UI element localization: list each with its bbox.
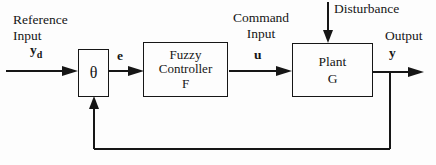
plant-block: Plant G <box>292 43 373 97</box>
command-arrowhead-right-icon <box>276 66 292 76</box>
command-input-label-line2: Input <box>228 26 294 42</box>
summing-junction-block: θ <box>78 49 109 97</box>
feedback-arrowhead-up-icon <box>89 96 99 109</box>
reference-input-label: Reference Input <box>13 12 68 44</box>
plant-label-line1: Plant <box>319 53 347 70</box>
reference-signal-symbol: y <box>30 42 37 57</box>
reference-signal-label: yd <box>30 42 42 63</box>
feedback-return-up-line <box>93 109 95 149</box>
fuzzy-controller-label-line1: Fuzzy <box>170 48 202 63</box>
error-signal-label: e <box>117 48 123 64</box>
error-signal-line <box>109 70 129 72</box>
command-signal-line <box>229 70 276 72</box>
disturbance-arrowhead-down-icon <box>323 30 333 43</box>
fuzzy-control-block-diagram: Reference Input yd θ e Fuzzy Controller … <box>0 0 436 165</box>
plant-label-line2: G <box>328 70 338 87</box>
command-input-label-line1: Command <box>228 10 294 26</box>
fuzzy-controller-label-line3: F <box>182 77 189 92</box>
output-arrowhead-right-icon <box>408 67 424 77</box>
feedback-bottom-line <box>94 148 390 150</box>
disturbance-label: Disturbance <box>334 1 399 17</box>
reference-input-label-line1: Reference <box>13 12 68 28</box>
reference-signal-subscript: d <box>37 49 43 60</box>
fuzzy-controller-label-line2: Controller <box>159 62 212 77</box>
command-signal-label: u <box>254 47 262 63</box>
summing-junction-symbol: θ <box>90 64 98 82</box>
command-input-label: Command Input <box>228 10 294 42</box>
reference-arrowhead-right-icon <box>62 66 78 76</box>
output-label: Output <box>385 28 423 44</box>
output-signal-label: y <box>389 45 396 61</box>
feedback-branch-down-line <box>389 71 391 149</box>
disturbance-line <box>327 2 329 31</box>
reference-input-line <box>6 70 63 72</box>
fuzzy-controller-block: Fuzzy Controller F <box>143 42 228 97</box>
error-arrowhead-right-icon <box>128 66 144 76</box>
